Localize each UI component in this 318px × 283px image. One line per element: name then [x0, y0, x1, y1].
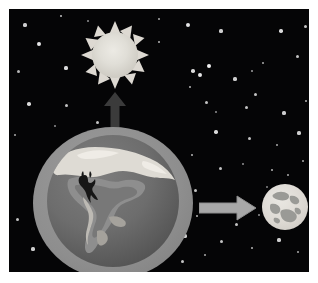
star: [198, 73, 202, 77]
star: [196, 215, 199, 218]
star: [251, 247, 254, 250]
star: [17, 70, 20, 73]
star: [205, 101, 208, 104]
star: [23, 23, 26, 26]
star: [96, 121, 99, 124]
sun-disc: [92, 32, 138, 78]
earth: [33, 127, 193, 272]
star: [251, 70, 254, 73]
star: [204, 254, 207, 257]
star: [282, 111, 285, 114]
star: [215, 111, 217, 113]
star: [276, 144, 279, 147]
star: [297, 251, 300, 254]
star: [186, 23, 190, 27]
star: [214, 130, 217, 133]
star: [235, 223, 238, 226]
star: [191, 69, 195, 73]
star: [245, 106, 248, 109]
star: [287, 174, 290, 177]
moon-maria-icon: [262, 184, 308, 230]
earth-globe: [47, 135, 179, 267]
star: [248, 137, 251, 140]
earth-landmasses-icon: [47, 135, 179, 267]
star: [242, 163, 244, 165]
star: [304, 25, 307, 28]
space-illustration: [0, 0, 318, 283]
night-sky-background: [9, 9, 309, 272]
star: [271, 169, 274, 172]
star: [37, 42, 41, 46]
star: [296, 55, 299, 58]
star: [194, 189, 197, 192]
star: [233, 77, 236, 80]
star: [14, 134, 17, 137]
star: [16, 218, 19, 221]
star: [158, 18, 161, 21]
star: [277, 238, 280, 241]
moon: [262, 184, 308, 230]
star: [219, 167, 222, 170]
arrow-right-icon: [199, 195, 257, 221]
star: [207, 64, 212, 69]
star: [27, 102, 31, 106]
star: [189, 86, 192, 89]
star: [305, 100, 308, 103]
sun: [81, 21, 149, 89]
star: [220, 240, 223, 243]
star: [65, 104, 68, 107]
star: [254, 93, 257, 96]
star: [158, 41, 161, 44]
star: [302, 160, 305, 163]
star: [64, 66, 67, 69]
star: [279, 29, 282, 32]
star: [262, 62, 265, 65]
star: [297, 131, 300, 134]
star: [60, 15, 63, 18]
star: [219, 29, 222, 32]
star: [258, 214, 260, 216]
